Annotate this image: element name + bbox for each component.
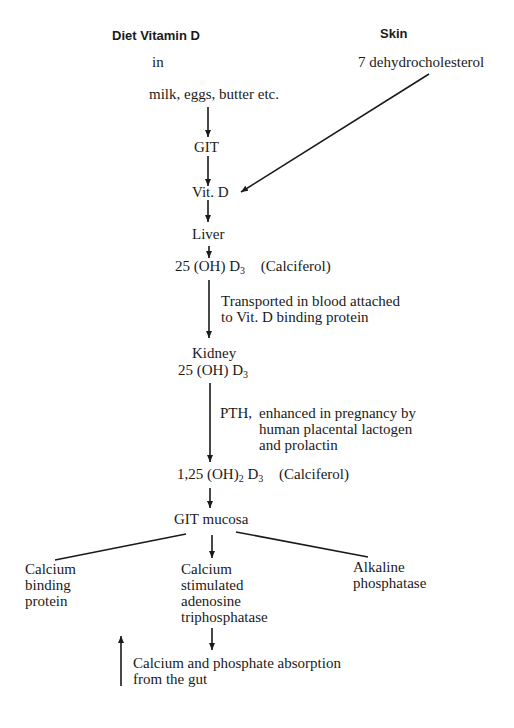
kidney-node: Kidney: [192, 345, 236, 361]
calcitriol-node: 1,25 (OH)2 D3 (Calciferol): [177, 466, 349, 482]
calcitriol-note: (Calciferol): [279, 466, 349, 482]
alkaline-phosphatase-node: Alkaline phosphatase: [353, 559, 426, 591]
line-mucosa-to-alp: [236, 532, 368, 557]
skin-header: Skin: [380, 26, 407, 42]
pth-detail-label: enhanced in pregnancy by human placental…: [259, 405, 416, 453]
food-sources-label: milk, eggs, butter etc.: [149, 86, 279, 102]
transport-edge-label: Transported in blood attached to Vit. D …: [221, 293, 400, 325]
git-node: GIT: [194, 139, 219, 155]
calcium-binding-protein-node: Calcium binding protein: [25, 561, 76, 609]
vit-d-node: Vit. D: [192, 184, 229, 200]
calcifediol-note: (Calciferol): [261, 258, 331, 274]
pth-label: PTH,: [220, 405, 252, 421]
diet-vitamin-d-header: Diet Vitamin D: [112, 28, 200, 44]
git-mucosa-node: GIT mucosa: [174, 511, 248, 527]
kidney-compound: 25 (OH) D3: [178, 362, 248, 378]
liver-node: Liver: [192, 226, 224, 242]
calcifediol-node: 25 (OH) D3 (Calciferol): [175, 258, 331, 274]
calcium-atpase-node: Calcium stimulated adenosine triphosphat…: [181, 561, 268, 625]
absorption-outcome-node: Calcium and phosphate absorption from th…: [133, 655, 341, 687]
skin-precursor-label: 7 dehydrocholesterol: [358, 54, 484, 70]
line-mucosa-to-cbp: [55, 534, 186, 560]
in-label: in: [152, 54, 164, 70]
